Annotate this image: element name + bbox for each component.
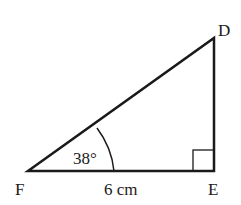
vertex-label-D: D: [218, 21, 230, 40]
right-angle-marker: [193, 150, 214, 171]
vertex-label-F: F: [15, 180, 24, 199]
side-length-label: 6 cm: [104, 180, 138, 199]
vertex-label-E: E: [208, 180, 218, 199]
angle-label: 38°: [73, 149, 97, 168]
angle-arc-F: [97, 128, 114, 171]
triangle-diagram: D F E 38° 6 cm: [0, 0, 241, 205]
triangle-DEF: [28, 38, 214, 171]
